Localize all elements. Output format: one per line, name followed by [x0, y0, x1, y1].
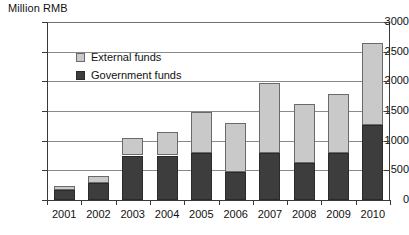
x-axis-tick-mark [287, 200, 288, 205]
x-axis-tick-mark [150, 200, 151, 205]
bar-segment-government [157, 156, 178, 201]
bar-segment-external [225, 123, 246, 172]
x-axis-tick-mark [47, 200, 48, 205]
bar-segment-government [88, 183, 109, 200]
x-axis-tick-label: 2010 [351, 208, 395, 220]
bar-group [362, 22, 383, 200]
y-axis-tick-mark [42, 141, 48, 142]
y-axis-tick-mark-right [384, 52, 390, 53]
y-axis-tick-mark-right [384, 141, 390, 142]
y-axis-tick-mark [42, 81, 48, 82]
legend-item-external: External funds [76, 50, 182, 65]
y-axis-tick-mark-right [384, 111, 390, 112]
bar-group [54, 22, 75, 200]
x-axis-tick-mark [184, 200, 185, 205]
x-axis-tick-mark [219, 200, 220, 205]
bar-segment-external [88, 176, 109, 183]
bar-group [259, 22, 280, 200]
bar-segment-government [122, 156, 143, 201]
legend-label-government: Government funds [91, 70, 182, 81]
y-axis-tick-mark-right [384, 81, 390, 82]
bar-segment-government [294, 163, 315, 200]
y-axis-tick-mark [42, 22, 48, 23]
legend-label-external: External funds [91, 52, 161, 63]
legend-swatch-icon-government [76, 71, 85, 80]
legend-swatch-icon-external [76, 53, 85, 62]
bar-group [88, 22, 109, 200]
legend-item-government: Government funds [76, 68, 182, 83]
bar-segment-government [191, 153, 212, 200]
x-axis-tick-mark [321, 200, 322, 205]
y-axis-tick-mark-right [384, 170, 390, 171]
x-axis-tick-mark [253, 200, 254, 205]
bar-segment-government [54, 190, 75, 200]
bar-segment-external [362, 43, 383, 125]
bar-segment-external [259, 83, 280, 153]
y-axis-tick-mark [42, 170, 48, 171]
x-axis-tick-mark [116, 200, 117, 205]
bar-segment-external [191, 112, 212, 154]
bar-segment-government [225, 172, 246, 200]
bar-segment-government [259, 153, 280, 200]
y-axis-tick-mark [42, 52, 48, 53]
bar-segment-government [328, 153, 349, 200]
bar-segment-government [362, 125, 383, 200]
bar-group [294, 22, 315, 200]
bar-segment-external [122, 138, 143, 155]
y-axis-tick-mark-right [384, 22, 390, 23]
bar-group [328, 22, 349, 200]
bar-chart: Million RMB 050010001500200025003000 200… [0, 0, 409, 235]
bar-group [157, 22, 178, 200]
bar-group [191, 22, 212, 200]
y-axis-title: Million RMB [8, 2, 68, 14]
bar-group [225, 22, 246, 200]
bar-group [122, 22, 143, 200]
chart-legend: External funds Government funds [76, 50, 182, 86]
y-axis-tick-mark [42, 111, 48, 112]
bar-segment-external [328, 94, 349, 153]
x-axis-tick-mark [81, 200, 82, 205]
x-axis-tick-mark [390, 200, 391, 205]
x-axis-tick-mark [356, 200, 357, 205]
bar-segment-external [157, 132, 178, 156]
bar-segment-external [294, 104, 315, 163]
